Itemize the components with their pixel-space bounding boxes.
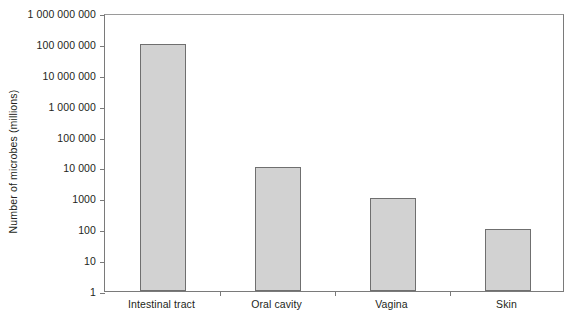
y-tick-label: 1 000 000 (48, 101, 96, 113)
y-tick-mark (100, 293, 105, 294)
y-tick-label: 100 000 000 (37, 39, 97, 51)
y-axis-title: Number of microbes (millions) (0, 0, 26, 323)
x-axis-category-label: Oral cavity (219, 298, 334, 310)
x-axis-category-label: Vagina (334, 298, 449, 310)
y-tick-mark (100, 200, 105, 201)
x-axis-category-label: Intestinal tract (104, 298, 219, 310)
bar (370, 198, 416, 291)
chart-figure: Number of microbes (millions) 1 000 000 … (0, 0, 576, 323)
y-tick-label: 10 000 (63, 162, 96, 174)
x-axis-category-label: Skin (449, 298, 564, 310)
x-tick-mark (335, 291, 336, 296)
y-tick-mark (100, 169, 105, 170)
y-tick-mark (100, 108, 105, 109)
y-tick-mark (100, 231, 105, 232)
x-tick-mark (450, 291, 451, 296)
y-tick-label: 100 000 (57, 132, 96, 144)
y-tick-label: 100 (78, 224, 96, 236)
y-tick-mark (100, 15, 105, 16)
bar (485, 229, 531, 291)
y-tick-mark (100, 46, 105, 47)
y-tick-mark (100, 77, 105, 78)
y-tick-mark (100, 262, 105, 263)
y-tick-label: 10 000 000 (42, 70, 96, 82)
bar (255, 167, 301, 291)
bar (140, 44, 186, 291)
y-tick-label: 10 (84, 255, 96, 267)
plot-area: 1 000 000 000100 000 00010 000 0001 000 … (104, 14, 564, 292)
y-tick-mark (100, 139, 105, 140)
y-tick-label: 1000 (72, 193, 96, 205)
y-tick-label: 1 000 000 000 (28, 8, 96, 20)
x-tick-mark (220, 291, 221, 296)
y-tick-label: 1 (90, 286, 96, 298)
